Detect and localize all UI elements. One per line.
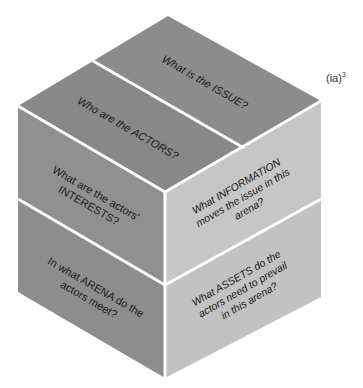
cube-diagram: What is the ISSUE? Who are the ACTORS? W… <box>0 0 363 388</box>
ia-cubed-label: (ia)3 <box>326 71 346 84</box>
label-exponent: 3 <box>342 71 346 78</box>
label-base: (ia) <box>326 72 342 84</box>
